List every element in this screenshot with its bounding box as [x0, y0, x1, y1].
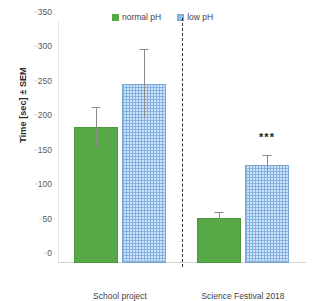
y-tick-350: 350 [38, 7, 58, 17]
y-tick-0: 0 [47, 248, 58, 258]
x-label-school-project: School project [93, 291, 147, 301]
y-tick-300: 300 [38, 41, 58, 51]
error-bar-science-festival-low-ph [267, 156, 268, 175]
error-bar-school-project-low-ph [144, 50, 145, 119]
error-cap-school-project-normal-ph [92, 107, 101, 108]
legend-item-low-ph: low pH [177, 13, 213, 22]
error-bar-school-project-normal-ph [96, 108, 97, 147]
y-tick-mark [34, 12, 38, 13]
error-cap-school-project-low-ph [140, 49, 149, 50]
legend-item-normal-ph: normal pH [112, 13, 161, 22]
y-tick-mark [34, 80, 38, 81]
y-tick-150: 150 [38, 145, 58, 155]
y-tick-mark [34, 184, 38, 185]
y-tick-mark [34, 115, 38, 116]
group-divider-line [182, 18, 183, 267]
error-cap-science-festival-low-ph [263, 155, 272, 156]
y-tick-mark [43, 253, 47, 254]
legend-label-low-ph: low pH [187, 13, 213, 22]
error-bar-science-festival-normal-ph [219, 213, 220, 223]
x-label-science-festival: Science Festival 2018 [201, 291, 284, 301]
green-solid-swatch-icon [112, 14, 119, 21]
significance-marker: *** [259, 132, 275, 143]
y-tick-50: 50 [43, 214, 58, 224]
chart-legend: normal pH low pH [112, 13, 213, 22]
error-cap-science-festival-normal-ph [215, 212, 224, 213]
y-tick-mark [39, 218, 43, 219]
y-tick-200: 200 [38, 110, 58, 120]
y-tick-mark [34, 46, 38, 47]
plot-area: 0 50 100 150 200 250 300 350 *** School … [58, 22, 306, 263]
y-tick-mark [34, 149, 38, 150]
bar-science-festival-low-ph [245, 165, 289, 263]
y-axis-line [58, 22, 59, 263]
y-tick-100: 100 [38, 179, 58, 189]
y-axis-title: Time [sec] ± SEM [18, 30, 28, 180]
bar-school-project-normal-ph [74, 127, 118, 263]
bar-science-festival-normal-ph [197, 218, 241, 263]
y-tick-250: 250 [38, 76, 58, 86]
legend-label-normal-ph: normal pH [122, 13, 161, 22]
